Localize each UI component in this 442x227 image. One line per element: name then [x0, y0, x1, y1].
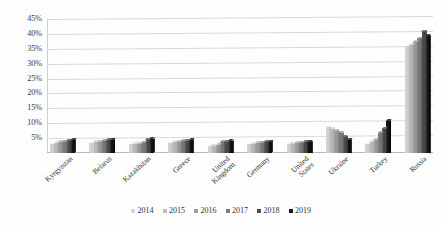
bar-side: [75, 138, 76, 153]
x-axis-tick-label: Belarus: [91, 155, 113, 176]
x-axis-tick-label: Russia: [409, 155, 429, 174]
bar-top: [365, 142, 371, 144]
x-axis-tick-label: Germany: [245, 155, 271, 180]
x-axis-tick-label: United States: [290, 155, 316, 181]
legend-label: 2017: [232, 206, 248, 215]
bar-side: [351, 138, 352, 153]
bar: [287, 143, 291, 153]
y-axis-tick-label: 35%: [27, 45, 42, 53]
bar-side: [146, 141, 147, 153]
y-axis-tick-label: 15%: [27, 104, 42, 112]
legend-item-2016[interactable]: 2016: [194, 206, 217, 215]
legend-label: 2014: [138, 206, 154, 215]
x-axis-tick-label: Turkey: [368, 155, 389, 175]
x-axis-labels: KyrgyzstanBelarusKazakhstanGreeceUnited …: [47, 153, 433, 205]
bar-cluster: [326, 19, 351, 153]
bar-side: [343, 131, 344, 152]
chart-legend: 201420152016201720182019: [0, 206, 442, 215]
legend-item-2019[interactable]: 2019: [289, 206, 312, 215]
legend-item-2014[interactable]: 2014: [131, 206, 154, 215]
bar-side: [67, 140, 68, 153]
y-axis-tick-label: 10%: [27, 119, 42, 127]
bar-side: [260, 141, 261, 153]
bar: [208, 145, 212, 153]
bar-side: [185, 139, 186, 153]
bar: [365, 143, 369, 153]
bar-side: [330, 125, 331, 153]
y-axis-tick-label: 40%: [27, 30, 42, 38]
bar-side: [303, 141, 304, 153]
bar-cluster: [50, 19, 75, 153]
bar-side: [312, 140, 313, 153]
bar-top: [50, 142, 56, 144]
legend-label: 2018: [264, 206, 280, 215]
bar-side: [189, 139, 190, 153]
legend-label: 2016: [201, 206, 217, 215]
legend-item-2015[interactable]: 2015: [163, 206, 186, 215]
legend-swatch-icon: [257, 209, 261, 213]
bar-side: [181, 140, 182, 153]
bar-side: [374, 140, 375, 153]
bar-side: [154, 137, 155, 152]
bar-chart: 45%40%35%30%25%20%15%10%5% KyrgyzstanBel…: [0, 0, 442, 227]
bar-cluster: [129, 19, 154, 153]
legend-swatch-icon: [194, 209, 198, 213]
y-axis-tick-label: 30%: [27, 60, 42, 68]
bar-side: [347, 135, 348, 153]
bar-side: [426, 30, 427, 153]
legend-item-2017[interactable]: 2017: [226, 206, 249, 215]
bar: [129, 144, 133, 153]
bar-side: [264, 141, 265, 153]
bar-side: [133, 142, 134, 152]
bar-side: [272, 140, 273, 153]
bar-side: [193, 138, 194, 153]
bar-cluster: [89, 19, 114, 153]
y-axis-tick-label: 5%: [31, 134, 42, 142]
bar: [168, 142, 172, 153]
legend-swatch-icon: [131, 209, 135, 213]
bar-side: [430, 34, 431, 153]
bar-side: [233, 139, 234, 153]
bar-top: [326, 125, 332, 127]
bar-side: [378, 138, 379, 153]
bar-side: [291, 142, 292, 153]
x-axis-tick-label: Kyrgyzstan: [43, 155, 74, 184]
bar-side: [413, 43, 414, 153]
y-axis-tick-label: 20%: [27, 89, 42, 97]
legend-label: 2019: [295, 206, 311, 215]
bar-cluster: [168, 19, 193, 153]
bar-face: [89, 142, 93, 153]
y-axis-tick-label: 25%: [27, 75, 42, 83]
x-axis-tick-label: Ukraine: [327, 155, 350, 177]
bar-side: [229, 140, 230, 153]
legend-swatch-icon: [226, 209, 230, 213]
bar: [405, 46, 409, 153]
x-axis-tick-label: Greece: [171, 155, 192, 175]
bar-cluster: [365, 19, 390, 153]
bar-cluster: [247, 19, 272, 153]
bar-side: [382, 131, 383, 152]
bar-side: [299, 141, 300, 153]
bar-cluster: [405, 19, 430, 153]
bar-side: [177, 140, 178, 152]
bar-side: [71, 139, 72, 153]
legend-swatch-icon: [289, 209, 293, 213]
bar: [89, 142, 93, 153]
x-axis-tick-label: Kazakhstan: [122, 155, 153, 184]
bar-side: [212, 144, 213, 153]
bar-side: [390, 119, 391, 152]
bar-side: [409, 44, 410, 152]
legend-swatch-icon: [163, 209, 167, 213]
bar: [247, 143, 251, 153]
legend-label: 2015: [169, 206, 185, 215]
bar-top: [382, 127, 388, 129]
bar-side: [150, 138, 151, 153]
legend-item-2018[interactable]: 2018: [257, 206, 280, 215]
y-axis-labels: 45%40%35%30%25%20%15%10%5%: [0, 19, 45, 153]
bar-side: [114, 138, 115, 153]
bar-side: [251, 142, 252, 153]
bar-cluster: [287, 19, 312, 153]
y-axis-tick-label: 45%: [27, 15, 42, 23]
plot-area: [47, 19, 433, 153]
bar-side: [94, 141, 95, 153]
